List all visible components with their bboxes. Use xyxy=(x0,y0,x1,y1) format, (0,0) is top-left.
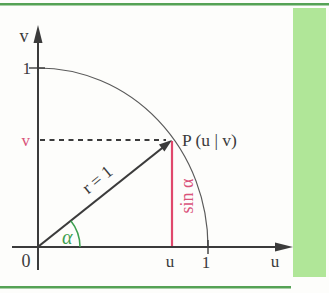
radius-line xyxy=(39,145,166,246)
u-axis-tick-label-1: 1 xyxy=(202,253,211,272)
textbook-figure-page: v 1 v P (u | v) r = 1 sin α α 0 u 1 u xyxy=(0,0,329,293)
sine-label: sin α xyxy=(177,178,197,214)
page-margin-stripe xyxy=(293,8,326,277)
v-axis-arrowhead-icon xyxy=(34,25,43,43)
v-axis-tick-label-1: 1 xyxy=(23,59,32,78)
u-axis-label: u xyxy=(271,252,280,271)
bottom-rule xyxy=(0,286,291,289)
u-axis-arrowhead-icon xyxy=(275,243,293,252)
angle-alpha-label: α xyxy=(62,226,73,248)
v-axis-label: v xyxy=(20,26,29,46)
u-coordinate-label: u xyxy=(166,252,175,271)
v-coordinate-label: v xyxy=(22,131,31,150)
top-rule xyxy=(0,3,329,6)
origin-label: 0 xyxy=(22,251,31,271)
radius-label: r = 1 xyxy=(78,161,116,197)
unit-circle-arc xyxy=(38,68,208,247)
point-p-label: P (u | v) xyxy=(182,130,237,150)
unit-circle-diagram: v 1 v P (u | v) r = 1 sin α α 0 u 1 u xyxy=(0,0,329,293)
